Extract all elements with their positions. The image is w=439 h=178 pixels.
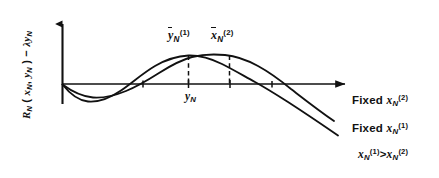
inequality-right-sup: (2) <box>398 147 408 156</box>
y-axis-label-lastvar: y <box>20 37 32 42</box>
inequality-left-sup: (1) <box>370 147 380 156</box>
y-axis-label-minus: − <box>20 47 32 57</box>
annotation-fixed-x2: Fixed xN(2) <box>352 93 408 108</box>
peak-marker-label-xbar-2: xN(2) <box>211 28 234 44</box>
annotation-fixed-x2-prefix: Fixed <box>352 94 383 106</box>
y-axis-label-comma: , <box>20 78 32 85</box>
y-axis-label-arg1-sub: N <box>25 84 34 90</box>
y-axis-label-paren-open: ( <box>20 96 32 106</box>
figure-container: RN ( xN, yN ) − λyN yN yN(1) xN(2) Fixed… <box>0 0 439 178</box>
annotation-inequality: xN(1)>xN(2) <box>358 147 408 162</box>
x-axis-label: yN <box>185 90 196 104</box>
peak-label-2-sup: (2) <box>223 28 233 37</box>
peak-label-1-sup: (1) <box>180 28 190 37</box>
y-axis-label-arg2: y <box>20 73 32 78</box>
annotation-fixed-x2-sup: (2) <box>398 93 408 102</box>
y-axis-label: RN ( xN, yN ) − λyN <box>20 5 34 145</box>
y-axis-label-R: R <box>20 112 32 120</box>
annotation-fixed-x1-prefix: Fixed <box>352 122 383 134</box>
y-axis-label-lastvar-sub: N <box>25 31 34 37</box>
y-axis-label-R-sub: N <box>25 106 34 112</box>
annotation-fixed-x1-sup: (1) <box>398 121 408 130</box>
peak-label-2-var: x <box>211 28 217 42</box>
peak-label-1-var: y <box>168 28 174 42</box>
y-axis-label-arg1: x <box>20 90 32 96</box>
annotation-fixed-x1: Fixed xN(1) <box>352 121 408 136</box>
peak-marker-label-ybar-1: yN(1) <box>168 28 190 44</box>
y-axis-label-arg2-sub: N <box>25 67 34 73</box>
curve-fixed-x1 <box>63 55 339 135</box>
inequality-relation: > <box>380 148 387 160</box>
y-axis-label-lambda: λ <box>20 42 32 47</box>
x-axis-label-sub: N <box>190 95 196 104</box>
y-axis-label-paren-close: ) <box>20 57 32 67</box>
curve-fixed-x2 <box>63 54 335 121</box>
